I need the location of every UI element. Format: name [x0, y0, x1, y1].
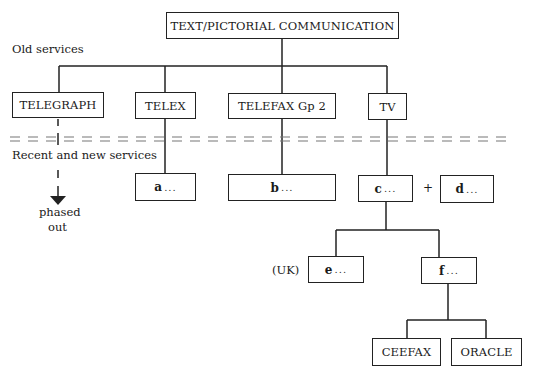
node-oracle: ORACLE — [451, 338, 522, 366]
phased-out-line1: phased — [39, 205, 81, 219]
uk-note: (UK) — [272, 263, 299, 277]
node-a: a... — [135, 173, 196, 201]
root-label: TEXT/PICTORIAL COMMUNICATION — [171, 19, 395, 33]
plus-sign: + — [423, 181, 433, 195]
node-c: c... — [358, 175, 413, 202]
node-e: e... — [308, 256, 364, 283]
new-services-label: Recent and new services — [12, 148, 157, 162]
phased-out-line2: out — [48, 220, 67, 234]
node-f: f... — [421, 257, 477, 284]
node-telex: TELEX — [135, 92, 196, 119]
node-ceefax: CEEFAX — [372, 338, 441, 366]
node-d: d... — [440, 175, 494, 203]
node-telefax: TELEFAX Gp 2 — [228, 93, 336, 119]
node-telegraph: TELEGRAPH — [12, 92, 104, 118]
arrow-down-icon — [50, 196, 66, 205]
node-tv: TV — [368, 93, 407, 120]
root-node: TEXT/PICTORIAL COMMUNICATION — [166, 12, 399, 39]
old-services-label: Old services — [12, 42, 84, 56]
node-b: b... — [228, 174, 336, 201]
